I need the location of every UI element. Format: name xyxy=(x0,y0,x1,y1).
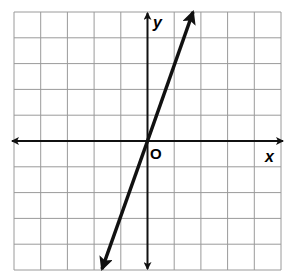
graphed-line xyxy=(148,12,194,141)
y-axis-label: y xyxy=(152,14,163,31)
x-axis-label: x xyxy=(264,148,275,165)
origin-label: O xyxy=(150,145,162,162)
graphed-line xyxy=(102,141,148,269)
coordinate-plane: y x O xyxy=(0,0,289,271)
